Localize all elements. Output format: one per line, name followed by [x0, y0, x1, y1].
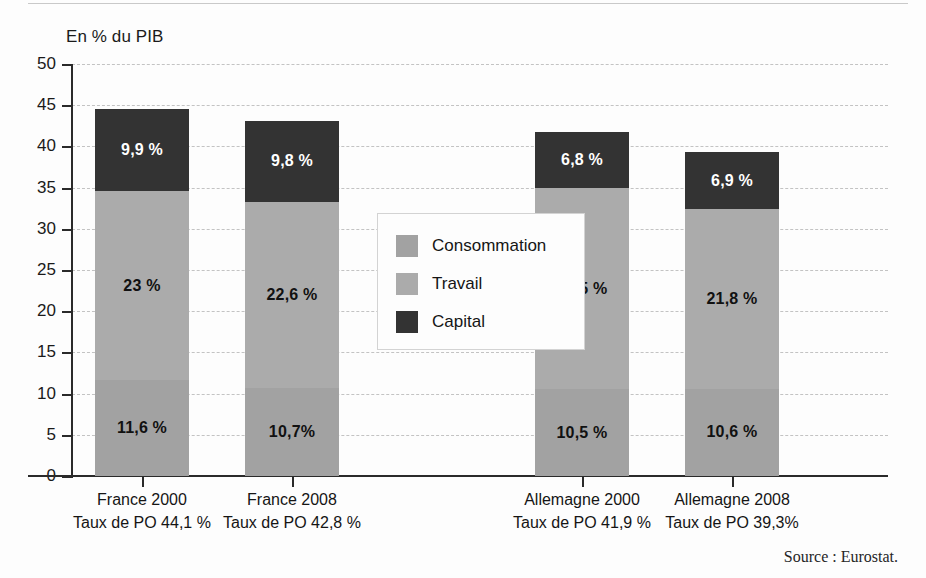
y-axis-tick-labels: 05101520253035404550: [16, 0, 56, 578]
x-axis-category-label: Allemagne 2008Taux de PO 39,3%: [665, 488, 798, 534]
y-axis-tick-label: 5: [22, 425, 56, 445]
category-rate: Taux de PO 41,9 %: [513, 511, 651, 534]
bar-segment-capital: 6,8 %: [535, 132, 629, 188]
y-axis-line: [71, 64, 73, 477]
bar-segment-value-label: 9,8 %: [271, 152, 313, 170]
bar-segment-value-label: 6,8 %: [561, 151, 603, 169]
x-axis-tick: [582, 476, 584, 487]
category-name: Allemagne 2008: [665, 488, 798, 511]
chart-legend: ConsommationTravailCapital: [377, 213, 585, 350]
legend-item-travail: Travail: [396, 265, 584, 303]
category-rate: Taux de PO 44,1 %: [73, 511, 211, 534]
legend-swatch-travail: [396, 273, 418, 295]
bar-segment-capital: 6,9 %: [685, 152, 779, 209]
bar-segment-consommation: 11,6 %: [95, 380, 189, 476]
legend-label: Capital: [432, 312, 485, 332]
bar-segment-value-label: 21,8 %: [706, 290, 757, 308]
bar-segment-value-label: 23 %: [123, 277, 160, 295]
category-name: Allemagne 2000: [513, 488, 651, 511]
category-name: France 2008: [223, 488, 361, 511]
y-axis-tick-label: 10: [22, 384, 56, 404]
stacked-bar: 10,7%22,6 %9,8 %: [245, 64, 339, 476]
stacked-bar: 10,6 %21,8 %6,9 %: [685, 64, 779, 476]
bar-segment-value-label: 10,6 %: [706, 423, 757, 441]
legend-swatch-capital: [396, 311, 418, 333]
category-rate: Taux de PO 39,3%: [665, 511, 798, 534]
bar-segment-travail: 22,6 %: [245, 202, 339, 388]
y-axis-tick-label: 40: [22, 136, 56, 156]
source-note: Source : Eurostat.: [784, 548, 898, 566]
stacked-bar: 11,6 %23 %9,9 %: [95, 64, 189, 476]
bar-segment-capital: 9,8 %: [245, 121, 339, 202]
figure-top-rule: [28, 3, 908, 4]
bar-segment-consommation: 10,6 %: [685, 389, 779, 476]
bar-segment-value-label: 10,5 %: [556, 424, 607, 442]
y-axis-tick-label: 30: [22, 219, 56, 239]
x-axis-category-label: France 2000Taux de PO 44,1 %: [73, 488, 211, 534]
category-name: France 2000: [73, 488, 211, 511]
legend-item-consommation: Consommation: [396, 227, 584, 265]
y-axis-tick-label: 25: [22, 260, 56, 280]
chart-figure: En % du PIB 05101520253035404550 11,6 %2…: [0, 0, 926, 578]
bar-segment-capital: 9,9 %: [95, 109, 189, 191]
y-axis-tick-label: 20: [22, 301, 56, 321]
x-axis-category-label: Allemagne 2000Taux de PO 41,9 %: [513, 488, 651, 534]
y-axis-tick-label: 15: [22, 342, 56, 362]
bar-segment-value-label: 22,6 %: [266, 286, 317, 304]
y-axis-title: En % du PIB: [66, 27, 164, 47]
legend-label: Consommation: [432, 236, 546, 256]
x-axis-tick: [732, 476, 734, 487]
legend-item-capital: Capital: [396, 303, 584, 341]
bar-segment-value-label: 11,6 %: [117, 419, 167, 437]
x-axis-tick: [292, 476, 294, 487]
x-axis-tick: [142, 476, 144, 487]
bar-segment-consommation: 10,5 %: [535, 389, 629, 476]
bar-segment-value-label: 9,9 %: [121, 141, 163, 159]
bar-segment-travail: 21,8 %: [685, 209, 779, 389]
legend-label: Travail: [432, 274, 482, 294]
y-axis-tick-label: 50: [22, 54, 56, 74]
legend-swatch-consommation: [396, 235, 418, 257]
y-axis-tick-label: 45: [22, 95, 56, 115]
y-axis-tick-label: 35: [22, 178, 56, 198]
bar-segment-value-label: 10,7%: [269, 423, 315, 441]
bar-segment-consommation: 10,7%: [245, 388, 339, 476]
bar-segment-travail: 23 %: [95, 191, 189, 381]
x-axis-category-label: France 2008Taux de PO 42,8 %: [223, 488, 361, 534]
category-rate: Taux de PO 42,8 %: [223, 511, 361, 534]
bar-segment-value-label: 6,9 %: [711, 172, 753, 190]
